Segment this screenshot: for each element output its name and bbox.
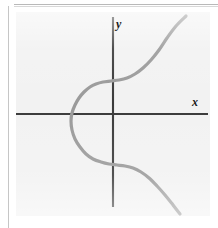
graph-canvas — [0, 0, 218, 228]
figure-root: y x — [0, 0, 218, 228]
y-axis-label: y — [116, 18, 121, 30]
x-axis-label: x — [192, 96, 198, 108]
axes-group — [16, 17, 208, 207]
